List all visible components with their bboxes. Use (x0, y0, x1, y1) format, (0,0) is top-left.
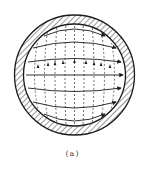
upward-arrowheads (37, 59, 112, 68)
waveguide-diagram (0, 0, 145, 174)
figure-caption: (a) (0, 149, 145, 158)
